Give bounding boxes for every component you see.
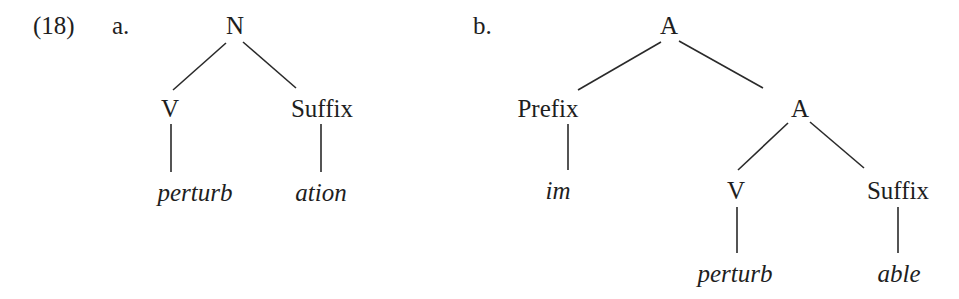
tree-a-v-node: V	[161, 96, 179, 121]
tree-b-label: b.	[473, 13, 492, 38]
branch-a-prefix	[578, 42, 661, 90]
tree-b-suffix-node: Suffix	[867, 178, 929, 203]
tree-a-label: a.	[112, 13, 129, 38]
tree-b-a-node: A	[791, 96, 809, 121]
tree-branches	[0, 0, 959, 299]
tree-a-word-ation: ation	[295, 180, 346, 205]
tree-a-root-node: N	[226, 13, 244, 38]
tree-a-suffix-node: Suffix	[291, 96, 353, 121]
tree-b-word-im: im	[546, 178, 571, 203]
branch-a-v	[738, 123, 788, 170]
tree-b-word-able: able	[877, 261, 920, 286]
tree-b-v-node: V	[727, 178, 745, 203]
branch-a-suffix	[810, 122, 864, 168]
tree-b-root-node: A	[660, 13, 678, 38]
tree-b-word-perturb: perturb	[698, 261, 773, 286]
branch-a-a	[679, 41, 763, 88]
tree-a-word-perturb: perturb	[158, 180, 233, 205]
branch-n-v	[173, 43, 226, 90]
tree-b-prefix-node: Prefix	[517, 96, 578, 121]
branch-n-suffix	[243, 42, 296, 88]
example-number: (18)	[33, 13, 75, 38]
